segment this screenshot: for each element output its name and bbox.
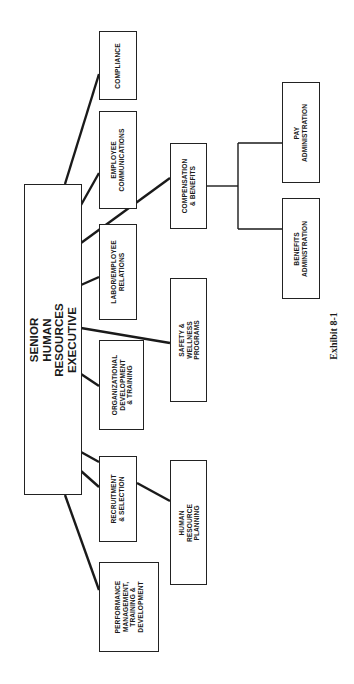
connector-employee-comm [81,173,99,205]
compliance-label: COMPLIANCE [114,43,122,88]
senior-hr-executive-box: SENIOR HUMAN RESOURCES EXECUTIVE [24,184,82,495]
compensation-benefits-box: COMPENSATION & BENEFITS [170,143,207,229]
connector-compliance [65,74,99,184]
benefits-administration-box: BENEFITS ADMINSTRATION [282,198,320,299]
organizational-development-box: ORGANIZATIONAL DEVELOPMENT & TRAINING [99,340,144,430]
pay-administration-label: PAY ADMINISTRATION [293,103,308,161]
benefits-administration-label: BENEFITS ADMINSTRATION [293,220,308,276]
employee-communications-label: EMPLOYEE COMMUNICATIONS [110,129,125,192]
exhibit-caption: Exhibit 8-1 [328,312,339,360]
recruitment-selection-label: RECRUITMENT & SELECTION [110,474,125,523]
pay-administration-box: PAY ADMINISTRATION [282,82,320,183]
labor-employee-relations-label: LABOR/EMPLOYEE RELATIONS [110,240,125,303]
organizational-development-label: ORGANIZATIONAL DEVELOPMENT & TRAINING [110,355,133,416]
connector-hr-planning [137,483,170,501]
connector-recruitment-b [81,471,99,487]
connector-labor [81,277,99,285]
senior-hr-executive-label: SENIOR HUMAN RESOURCES EXECUTIVE [28,303,78,377]
hr-planning-label: HUMAN RESOURCE PLANNING [177,503,200,541]
compensation-benefits-label: COMPENSATION & BENEFITS [181,159,196,214]
employee-communications-box: EMPLOYEE COMMUNICATIONS [99,111,137,209]
hr-planning-box: HUMAN RESOURCE PLANNING [170,460,207,585]
safety-wellness-label: SAFETY & WELLNESS PROGRAMS [177,320,200,360]
performance-management-box: PERFORMANCE MANAGEMENT, TRAINING & DEVEL… [99,562,159,652]
connector-org-dev [81,374,99,386]
safety-wellness-box: SAFETY & WELLNESS PROGRAMS [170,278,207,402]
org-chart: SENIOR HUMAN RESOURCES EXECUTIVE COMPLIA… [0,0,354,684]
connector-performance [65,495,99,590]
labor-employee-relations-box: LABOR/EMPLOYEE RELATIONS [99,224,137,320]
compliance-box: COMPLIANCE [99,31,137,100]
connector-recruitment-a [81,452,99,462]
performance-management-label: PERFORMANCE MANAGEMENT, TRAINING & DEVEL… [114,581,144,634]
recruitment-selection-box: RECRUITMENT & SELECTION [99,456,137,542]
